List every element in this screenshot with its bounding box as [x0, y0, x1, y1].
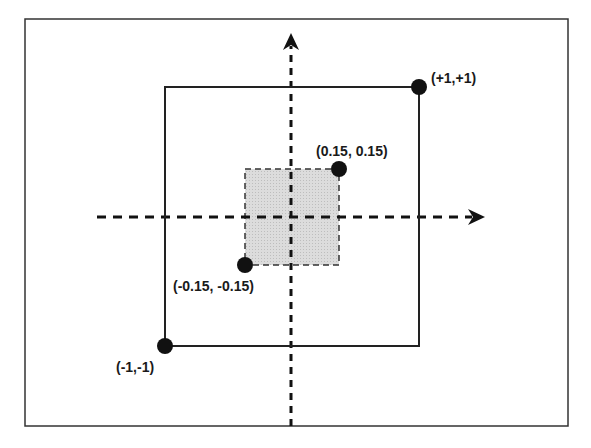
coordinate-diagram: (+1,+1) (0.15, 0.15) (-0.15, -0.15) (-1,… [0, 0, 591, 448]
label-minus-one: (-1,-1) [116, 359, 154, 375]
label-plus-015: (0.15, 0.15) [316, 143, 388, 159]
label-minus-015: (-0.15, -0.15) [173, 278, 254, 294]
point-minus-one [157, 338, 173, 354]
point-plus-one [411, 79, 427, 95]
label-plus-one: (+1,+1) [431, 70, 476, 86]
point-minus-015 [237, 257, 253, 273]
point-plus-015 [331, 161, 347, 177]
